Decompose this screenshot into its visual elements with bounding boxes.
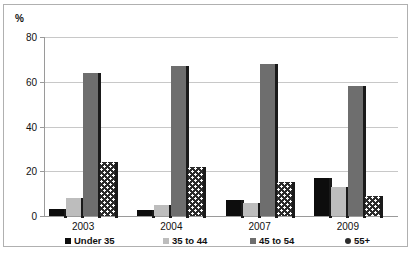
- legend-label: Under 35: [74, 235, 115, 246]
- legend-swatch-icon: [65, 238, 71, 244]
- legend-entry-45-to-54[interactable]: 45 to 54: [250, 235, 294, 246]
- legend-swatch-icon: [345, 238, 351, 244]
- legend-label: 35 to 44: [172, 235, 207, 246]
- y-axis-tick-mark: [40, 37, 45, 38]
- x-axis-label-2007: 2007: [249, 221, 271, 232]
- bar-under-35-2003[interactable]: [49, 209, 64, 216]
- bar-55-plus-2009[interactable]: [365, 196, 380, 216]
- bar-slot-under-35: [49, 37, 66, 216]
- bar-shadow: [380, 196, 383, 218]
- bar-55-plus-2003[interactable]: [100, 162, 115, 216]
- bar-45-to-54-2003[interactable]: [83, 73, 98, 216]
- bar-slot-35-to-44: [331, 37, 348, 216]
- plot-area: [45, 37, 398, 216]
- bar-slot-35-to-44: [243, 37, 260, 216]
- y-axis-tick-label: 40: [7, 122, 37, 133]
- bar-slot-55-plus: [100, 37, 117, 216]
- bar-slot-under-35: [314, 37, 331, 216]
- bar-35-to-44-2007[interactable]: [243, 203, 258, 216]
- legend-entry-under-35[interactable]: Under 35: [65, 235, 115, 246]
- legend-swatch-icon: [250, 238, 256, 244]
- legend-entry-35-to-44[interactable]: 35 to 44: [163, 235, 207, 246]
- bar-under-35-2004[interactable]: [137, 210, 152, 216]
- bar-45-to-54-2004[interactable]: [171, 66, 186, 216]
- y-axis-tick-mark: [40, 127, 45, 128]
- bar-under-35-2009[interactable]: [314, 178, 329, 216]
- bar-35-to-44-2004[interactable]: [154, 205, 169, 216]
- bar-group: [133, 37, 221, 216]
- bar-group: [222, 37, 310, 216]
- plot-inner: [45, 37, 398, 216]
- bar-under-35-2007[interactable]: [226, 200, 241, 216]
- bar-35-to-44-2003[interactable]: [66, 198, 81, 216]
- bar-slot-45-to-54: [83, 37, 100, 216]
- bar-slot-45-to-54: [348, 37, 365, 216]
- y-axis-tick-mark: [40, 82, 45, 83]
- y-axis-tick-mark: [40, 171, 45, 172]
- bar-slot-45-to-54: [260, 37, 277, 216]
- bar-45-to-54-2009[interactable]: [348, 86, 363, 216]
- legend-entry-55-plus[interactable]: 55+: [345, 235, 370, 246]
- bar-slot-under-35: [226, 37, 243, 216]
- legend-label: 45 to 54: [259, 235, 294, 246]
- x-axis-category-labels: 2003200420072009: [45, 221, 398, 235]
- bar-shadow: [292, 182, 295, 218]
- bar-55-plus-2007[interactable]: [277, 182, 292, 216]
- y-axis-unit-label: %: [15, 13, 24, 24]
- bar-group: [310, 37, 398, 216]
- x-axis-label-2009: 2009: [337, 221, 359, 232]
- y-axis-tick-label: 0: [7, 211, 37, 222]
- y-axis-tick-label: 60: [7, 77, 37, 88]
- x-axis-label-2003: 2003: [72, 221, 94, 232]
- bar-55-plus-2004[interactable]: [188, 167, 203, 216]
- chart-legend: Under 3535 to 4445 to 5455+: [45, 235, 398, 249]
- y-axis-tick-label: 20: [7, 166, 37, 177]
- y-axis-tick-mark: [40, 216, 45, 217]
- bar-35-to-44-2009[interactable]: [331, 187, 346, 216]
- bar-slot-55-plus: [365, 37, 382, 216]
- bar-slot-55-plus: [277, 37, 294, 216]
- x-axis-label-2004: 2004: [160, 221, 182, 232]
- y-axis-tick-label: 80: [7, 32, 37, 43]
- chart-screenshot: % 020406080 2003200420072009 Under 3535 …: [0, 0, 413, 254]
- bar-slot-under-35: [137, 37, 154, 216]
- bar-group: [45, 37, 133, 216]
- legend-swatch-icon: [163, 238, 169, 244]
- chart-frame: % 020406080 2003200420072009 Under 3535 …: [3, 4, 408, 247]
- bar-shadow: [115, 162, 118, 218]
- bar-slot-55-plus: [188, 37, 205, 216]
- legend-label: 55+: [354, 235, 370, 246]
- bar-slot-35-to-44: [66, 37, 83, 216]
- bar-45-to-54-2007[interactable]: [260, 64, 275, 216]
- bar-slot-45-to-54: [171, 37, 188, 216]
- bar-slot-35-to-44: [154, 37, 171, 216]
- y-axis-tick-labels: 020406080: [4, 37, 37, 217]
- bar-shadow: [203, 167, 206, 218]
